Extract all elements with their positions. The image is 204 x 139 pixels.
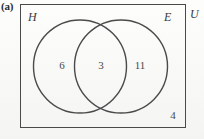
part-label: (a) [1,0,13,13]
set-circle-H [34,20,127,113]
universal-set-label: U [190,8,199,20]
set-circle-E [75,20,168,113]
region-count-intersection: 3 [93,60,109,71]
region-count-e-only: 11 [130,60,150,71]
set-label-H: H [28,11,37,23]
set-label-E: E [164,11,171,23]
venn-diagram-figure: (a) H E U 6 3 11 4 [0,0,204,139]
region-count-outside: 4 [166,110,180,121]
region-count-h-only: 6 [54,60,70,71]
